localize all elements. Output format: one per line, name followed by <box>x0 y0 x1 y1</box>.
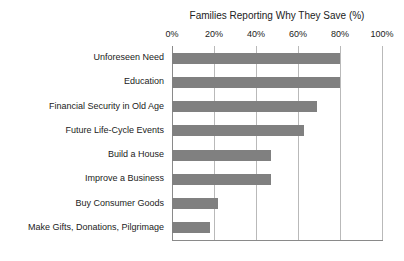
category-label: Education <box>0 76 168 86</box>
bar <box>172 101 317 112</box>
category-label: Future Life-Cycle Events <box>0 125 168 135</box>
category-label: Improve a Business <box>0 173 168 183</box>
x-tick-label: 20% <box>205 29 223 39</box>
bar <box>172 174 271 185</box>
category-label: Build a House <box>0 149 168 159</box>
x-axis-tick-labels: 0%20%40%60%80%100% <box>0 29 404 43</box>
category-label: Financial Security in Old Age <box>0 101 168 111</box>
bar <box>172 125 304 136</box>
bar <box>172 150 271 161</box>
chart-title: Families Reporting Why They Save (%) <box>172 10 382 21</box>
category-label: Unforeseen Need <box>0 52 168 62</box>
bar <box>172 53 340 64</box>
x-tick-label: 40% <box>247 29 265 39</box>
x-tick-label: 100% <box>370 29 393 39</box>
x-tick-label: 0% <box>165 29 178 39</box>
bar-chart: Families Reporting Why They Save (%) 0%2… <box>0 0 404 261</box>
y-axis-category-labels: Unforeseen NeedEducationFinancial Securi… <box>0 46 168 240</box>
bar <box>172 222 210 233</box>
category-label: Make Gifts, Donations, Pilgrimage <box>0 222 168 232</box>
bar <box>172 77 340 88</box>
x-tick-label: 80% <box>331 29 349 39</box>
x-axis-line <box>172 240 383 241</box>
bars-group <box>172 46 382 240</box>
bar <box>172 198 218 209</box>
gridline <box>382 46 383 240</box>
plot-area <box>172 46 382 240</box>
x-tick-label: 60% <box>289 29 307 39</box>
category-label: Buy Consumer Goods <box>0 198 168 208</box>
